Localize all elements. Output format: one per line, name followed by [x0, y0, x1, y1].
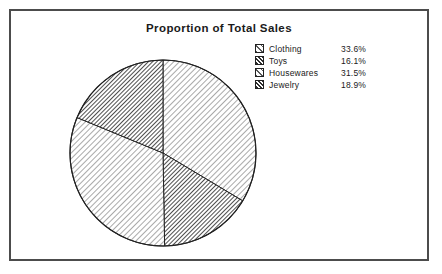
chart-frame: Proportion of Total Sales Clothing 33.6%	[9, 9, 429, 261]
chart-title: Proportion of Total Sales	[11, 22, 427, 34]
legend-label-toys: Toys	[269, 56, 341, 66]
legend-swatch-housewares-icon	[255, 68, 264, 77]
pie-chart	[63, 53, 263, 253]
legend-swatch-jewelry-icon	[255, 80, 264, 89]
legend-value-jewelry: 18.9%	[341, 80, 366, 90]
legend-item-clothing: Clothing 33.6%	[255, 43, 417, 54]
legend-item-housewares: Housewares 31.5%	[255, 67, 417, 78]
legend-label-clothing: Clothing	[269, 44, 341, 54]
legend-swatch-clothing-icon	[255, 44, 264, 53]
legend-item-toys: Toys 16.1%	[255, 55, 417, 66]
legend-swatch-toys-icon	[255, 56, 264, 65]
pie-slices	[70, 60, 256, 246]
legend-value-clothing: 33.6%	[341, 44, 366, 54]
chart-legend: Clothing 33.6% Toys 16.1% Housewares 31.…	[255, 43, 417, 91]
legend-label-housewares: Housewares	[269, 68, 341, 78]
legend-item-jewelry: Jewelry 18.9%	[255, 79, 417, 90]
legend-label-jewelry: Jewelry	[269, 80, 341, 90]
legend-value-housewares: 31.5%	[341, 68, 366, 78]
legend-value-toys: 16.1%	[341, 56, 366, 66]
pie-svg	[63, 53, 263, 253]
